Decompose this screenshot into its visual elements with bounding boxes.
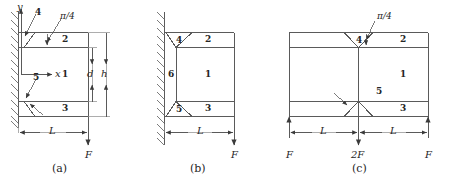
axis-label-y-a: y xyxy=(17,2,23,12)
region-label-b-5: 5 xyxy=(176,105,182,114)
load-label-b-F: F xyxy=(231,150,238,160)
angle-label-c: π/4 xyxy=(377,12,392,21)
figure-canvas: y x 4 5 1 2 3 π/4 L d h F (a) 4 5 6 1 2 … xyxy=(0,0,451,182)
dimension-label-c-L-left: L xyxy=(320,126,327,136)
dimension-label-c-L-right: L xyxy=(390,126,397,136)
dimension-label-a-d: d xyxy=(87,69,93,79)
load-label-a-F: F xyxy=(85,150,92,160)
diagram-svg xyxy=(0,0,451,182)
region-label-a-1: 1 xyxy=(62,70,68,79)
wall-hatching-a xyxy=(11,12,19,128)
caption-a: (a) xyxy=(52,163,67,174)
load-label-c-2F: 2F xyxy=(351,150,364,160)
dimension-label-a-L: L xyxy=(49,126,56,136)
region-label-b-4: 4 xyxy=(176,36,182,45)
region-label-c-3: 3 xyxy=(400,104,406,113)
axis-label-x-a: x xyxy=(55,69,61,79)
region-label-a-3: 3 xyxy=(62,104,68,113)
caption-b: (b) xyxy=(190,163,206,174)
region-label-b-3: 3 xyxy=(205,104,211,113)
region-label-c-1: 1 xyxy=(400,70,406,79)
wall-hatching-b xyxy=(157,12,165,145)
region-label-a-4: 4 xyxy=(35,8,41,17)
region-label-b-1: 1 xyxy=(205,70,211,79)
dimension-label-b-L: L xyxy=(197,126,204,136)
region-label-c-5: 5 xyxy=(376,87,382,96)
dimension-label-a-h: h xyxy=(101,69,107,79)
caption-c: (c) xyxy=(352,163,367,174)
panel-a-leaders xyxy=(25,14,61,115)
region-label-a-5: 5 xyxy=(33,73,39,82)
region-label-a-2: 2 xyxy=(62,35,68,44)
panel-c-geometry xyxy=(289,33,428,146)
region-label-c-4: 4 xyxy=(356,36,362,45)
region-label-b-6: 6 xyxy=(168,70,174,79)
angle-label-a: π/4 xyxy=(60,12,75,21)
region-label-c-2: 2 xyxy=(400,35,406,44)
region-label-b-2: 2 xyxy=(205,35,211,44)
panel-a-geometry xyxy=(11,9,88,128)
load-label-c-F-right: F xyxy=(425,150,432,160)
panel-c-leaders xyxy=(334,21,375,105)
load-label-c-F-left: F xyxy=(286,150,293,160)
